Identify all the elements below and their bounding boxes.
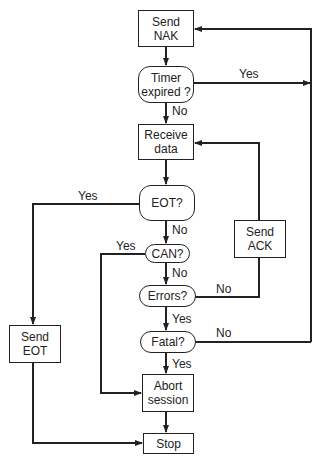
timer-no-label: No	[172, 105, 187, 118]
timer-line1: Timer	[151, 71, 181, 85]
send-ack-line1: Send	[246, 225, 274, 239]
timer-expired-decision: Timer expired ?	[138, 66, 194, 103]
can-no-label: No	[172, 267, 187, 280]
send-nak-line1: Send	[152, 15, 180, 29]
eot-label: EOT?	[151, 196, 182, 210]
abort-session-box: Abort session	[142, 374, 194, 412]
errors-yes-label: Yes	[172, 313, 192, 326]
can-decision: CAN?	[145, 244, 190, 263]
arrow-can-yes	[101, 254, 145, 393]
errors-decision: Errors?	[139, 285, 196, 307]
stop-label: Stop	[156, 437, 181, 451]
send-nak-line2: NAK	[154, 29, 179, 43]
can-yes-label: Yes	[116, 240, 136, 253]
send-eot-line1: Send	[21, 330, 49, 344]
abort-line2: session	[148, 393, 189, 407]
send-nak-box: Send NAK	[138, 10, 194, 47]
receive-line2: data	[154, 142, 177, 156]
errors-no-label: No	[216, 283, 231, 296]
errors-label: Errors?	[148, 289, 187, 303]
send-ack-line2: ACK	[248, 239, 273, 253]
send-eot-box: Send EOT	[9, 325, 61, 363]
send-eot-line2: EOT	[23, 344, 48, 358]
fatal-yes-label: Yes	[172, 358, 192, 371]
can-label: CAN?	[151, 247, 183, 261]
eot-decision: EOT?	[139, 185, 195, 221]
eot-no-label: No	[172, 224, 187, 237]
timer-yes-label: Yes	[239, 68, 259, 81]
arrow-sendeot-to-stop	[33, 362, 142, 443]
fatal-decision: Fatal?	[140, 331, 196, 353]
arrow-eot-yes	[33, 204, 139, 324]
fatal-no-label: No	[216, 327, 231, 340]
send-ack-box: Send ACK	[234, 220, 286, 258]
timer-line2: expired ?	[141, 85, 190, 99]
abort-line1: Abort	[154, 379, 183, 393]
stop-box: Stop	[143, 433, 194, 454]
eot-yes-label: Yes	[78, 190, 98, 203]
fatal-label: Fatal?	[151, 335, 184, 349]
arrow-ack-to-receive	[195, 143, 259, 220]
receive-line1: Receive	[144, 128, 187, 142]
receive-data-box: Receive data	[138, 124, 194, 160]
